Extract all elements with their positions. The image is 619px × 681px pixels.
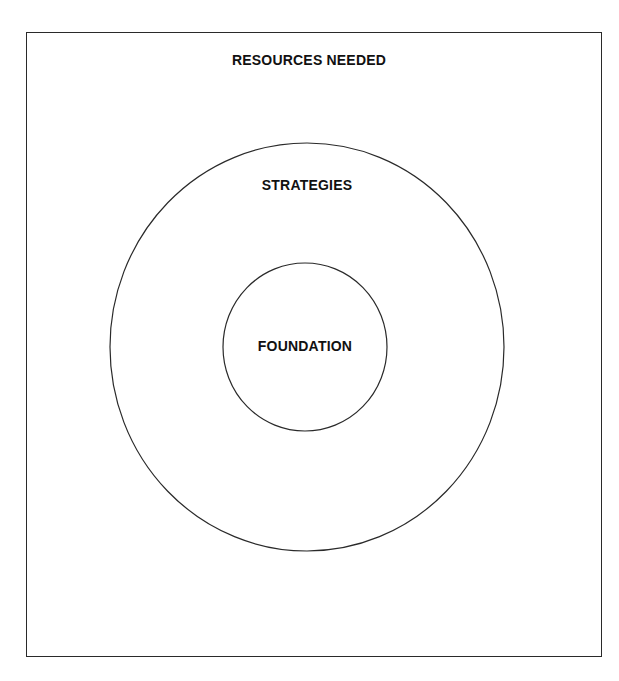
foundation-label: FOUNDATION xyxy=(258,338,352,354)
strategies-label: STRATEGIES xyxy=(262,177,352,193)
resources-needed-label: RESOURCES NEEDED xyxy=(232,52,386,68)
